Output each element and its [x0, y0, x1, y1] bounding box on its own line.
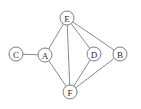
graph-node-e: E: [60, 11, 74, 25]
node-label-c: C: [13, 50, 19, 60]
graph-canvas: ABCDEF: [0, 0, 141, 109]
node-label-b: B: [117, 50, 123, 60]
graph-node-b: B: [113, 47, 127, 61]
node-label-e: E: [64, 14, 70, 24]
graph-edge-c-a: [23, 54, 38, 55]
graph-edge-b-f: [76, 58, 115, 88]
node-label-a: A: [42, 51, 49, 61]
graph-node-f: F: [63, 85, 77, 99]
node-label-f: F: [67, 88, 72, 98]
node-label-d: D: [91, 50, 98, 60]
graph-node-a: A: [38, 48, 52, 62]
graph-edge-d-f: [74, 60, 91, 86]
graph-edge-a-f: [49, 61, 66, 86]
graph-edge-e-b: [73, 22, 114, 50]
graph-edge-a-e: [49, 24, 64, 49]
graph-node-d: D: [87, 47, 101, 61]
graph-node-c: C: [9, 47, 23, 61]
graph-figure: ABCDEF: [0, 0, 141, 109]
graph-edge-e-f: [67, 25, 69, 85]
